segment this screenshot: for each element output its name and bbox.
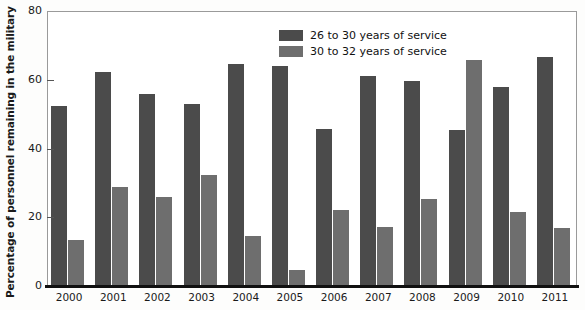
bar-2001-series-1 [95,72,111,286]
bar-2001-series-2 [112,187,128,286]
y-tick-label-0: 0 [16,280,42,291]
x-tick-label-2003: 2003 [180,290,224,304]
bar-2005-series-1 [272,66,288,286]
bar-2003-series-2 [201,175,217,286]
bar-2007-series-2 [377,227,393,286]
y-tick-mark-20 [47,217,54,218]
y-tick-label-80: 80 [16,5,42,16]
bars-layer [47,11,577,286]
bar-2005-series-2 [289,270,305,287]
x-axis-line [45,285,579,288]
bar-group-2001 [91,11,135,286]
bar-2002-series-1 [139,94,155,287]
x-tick-label-2011: 2011 [533,290,577,304]
x-tick-label-2009: 2009 [445,290,489,304]
bar-2007-series-1 [360,76,376,286]
bar-2008-series-2 [421,199,437,286]
bar-2006-series-2 [333,210,349,286]
bar-group-2002 [135,11,179,286]
y-tick-label-60: 60 [16,74,42,85]
bar-group-2004 [224,11,268,286]
bar-2010-series-2 [510,212,526,286]
y-tick-label-40: 40 [16,143,42,154]
bar-2004-series-2 [245,236,261,286]
bar-2008-series-1 [404,81,420,286]
bar-2006-series-1 [316,129,332,286]
x-tick-label-2002: 2002 [135,290,179,304]
bar-group-2007 [356,11,400,286]
bar-group-2009 [445,11,489,286]
y-tick-label-20: 20 [16,211,42,222]
bar-2000-series-1 [51,106,67,286]
bar-2003-series-1 [184,104,200,286]
x-tick-label-2004: 2004 [224,290,268,304]
y-tick-mark-40 [47,149,54,150]
bar-group-2008 [400,11,444,286]
bar-2010-series-1 [493,87,509,286]
y-tick-mark-60 [47,80,54,81]
bar-group-2006 [312,11,356,286]
x-tick-label-2007: 2007 [356,290,400,304]
bar-chart: Percentage of personnel remaining in the… [0,0,585,310]
x-tick-label-2000: 2000 [47,290,91,304]
bar-2009-series-1 [449,130,465,286]
x-tick-label-2001: 2001 [91,290,135,304]
bar-2009-series-2 [466,60,482,286]
bar-2011-series-2 [554,228,570,286]
x-tick-label-2008: 2008 [400,290,444,304]
bar-group-2003 [180,11,224,286]
x-tick-label-2006: 2006 [312,290,356,304]
bar-group-2005 [268,11,312,286]
x-tick-label-2005: 2005 [268,290,312,304]
x-axis-labels: 2000200120022003200420052006200720082009… [47,290,577,308]
x-tick-label-2010: 2010 [489,290,533,304]
y-axis-ticks: 020406080 [14,0,42,310]
bar-2011-series-1 [537,57,553,286]
bar-2004-series-1 [228,64,244,286]
bar-2002-series-2 [156,197,172,286]
bar-group-2011 [533,11,577,286]
bar-group-2010 [489,11,533,286]
bar-2000-series-2 [68,240,84,286]
